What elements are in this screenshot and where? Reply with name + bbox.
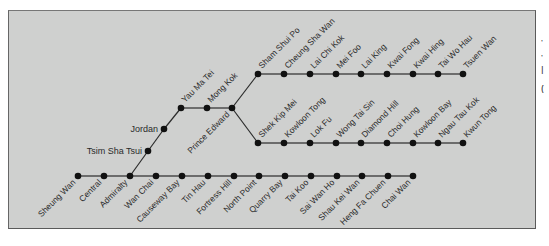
track-segment [164, 108, 181, 129]
station-dot-quarry-bay[interactable] [282, 173, 289, 180]
track-segment [232, 108, 258, 143]
side-mark: ' [541, 40, 549, 48]
station-dot-kowloon-tong[interactable] [281, 140, 288, 147]
side-mark: ' [541, 55, 549, 63]
station-dot-kwun-tong[interactable] [460, 140, 467, 147]
station-dot-kwai-fong[interactable] [384, 71, 391, 78]
side-mark: | [541, 66, 549, 74]
station-dot-tai-koo[interactable] [308, 173, 315, 180]
station-dot-wong-tai-sin[interactable] [333, 140, 340, 147]
station-dot-prince-edward[interactable] [229, 105, 236, 112]
station-dot-north-point[interactable] [256, 173, 263, 180]
station-dot-causeway-bay[interactable] [179, 173, 186, 180]
mtr-network-map: Sheung WanCentralAdmiraltyWan ChaiCausew… [0, 0, 549, 246]
station-dot-lok-fu[interactable] [307, 140, 314, 147]
station-dot-yau-ma-tei[interactable] [178, 105, 185, 112]
station-dot-heng-fa-chuen[interactable] [385, 173, 392, 180]
station-dot-admiralty[interactable] [127, 173, 134, 180]
station-dot-cheung-sha-wan[interactable] [281, 71, 288, 78]
station-dot-sheung-wan[interactable] [75, 173, 82, 180]
station-label: Tsim Sha Tsui [87, 146, 142, 156]
station-dot-fortress-hill[interactable] [231, 173, 238, 180]
station-dot-sai-wan-ho[interactable] [334, 173, 341, 180]
station-dot-jordan[interactable] [161, 126, 168, 133]
station-dot-tin-hau[interactable] [205, 173, 212, 180]
station-dot-lai-chi-kok[interactable] [307, 71, 314, 78]
station-dot-mei-foo[interactable] [333, 71, 340, 78]
station-label: Jordan [130, 124, 158, 134]
station-dot-sham-shui-po[interactable] [255, 71, 262, 78]
station-dot-shek-kip-mei[interactable] [255, 140, 262, 147]
station-dot-tai-wo-hau[interactable] [435, 71, 442, 78]
station-dot-diamond-hill[interactable] [358, 140, 365, 147]
station-dot-wan-chai[interactable] [153, 173, 160, 180]
station-label: Prince Edward [185, 109, 231, 155]
station-dot-central[interactable] [101, 173, 108, 180]
station-label: Sheung Wan [36, 177, 78, 219]
station-labels: Sheung WanCentralAdmiraltyWan ChaiCausew… [36, 16, 499, 227]
station-dot-tsuen-wan[interactable] [460, 71, 467, 78]
station-label: Lai King [359, 41, 388, 70]
side-mark: ( [541, 85, 549, 93]
station-label: Lok Fu [308, 114, 334, 140]
station-dot-ngau-tau-kok[interactable] [435, 140, 442, 147]
station-dot-lai-king[interactable] [358, 71, 365, 78]
station-dot-kowloon-bay[interactable] [410, 140, 417, 147]
station-dot-shau-kei-wan[interactable] [359, 173, 366, 180]
station-dot-tsim-sha-tsui[interactable] [145, 148, 152, 155]
station-dot-kwai-hing[interactable] [410, 71, 417, 78]
station-dot-mong-kok[interactable] [204, 105, 211, 112]
station-dot-chai-wan[interactable] [410, 173, 417, 180]
station-dot-choi-hung[interactable] [384, 140, 391, 147]
